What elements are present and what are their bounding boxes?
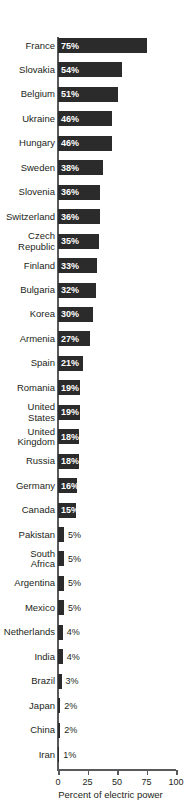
bar-row: Korea30% [0,307,185,322]
bar-row: Slovenia36% [0,185,185,200]
bar-value-label: 36% [61,187,79,197]
bar-row: Mexico5% [0,600,185,615]
bar-row: Argentina5% [0,576,185,591]
bar [58,600,64,615]
x-tick-label: 0 [55,777,60,788]
bar: 36% [58,209,100,224]
bar-value-label: 35% [61,236,79,246]
category-label: Germany [0,480,58,491]
bar: 16% [58,478,77,493]
bar-value-label: 18% [61,456,79,466]
bar-row: China2% [0,723,185,738]
bar: 51% [58,87,118,102]
bar-value-label: 46% [61,138,79,148]
category-label: Slovakia [0,65,58,76]
bar-value-label: 75% [61,41,79,51]
category-label: India [0,652,58,663]
x-tick [58,770,60,775]
category-label: Sweden [0,163,58,174]
bar-row: Ukraine46% [0,111,185,126]
bar-row: South Africa5% [0,551,185,566]
bar-row: United States19% [0,405,185,420]
bar-row: Romania19% [0,380,185,395]
category-label: Hungary [0,138,58,149]
bar-row: Hungary46% [0,136,185,151]
category-label: Armenia [0,334,58,345]
category-label: Russia [0,456,58,467]
bar-value-label: 5% [68,530,81,540]
category-label: China [0,725,58,736]
plot-area: France75%Slovakia54%Belgium51%Ukraine46%… [0,0,185,811]
bar-row: India4% [0,649,185,664]
category-label: Bulgaria [0,285,58,296]
bar: 46% [58,111,112,126]
bar-value-label: 1% [63,750,76,760]
bar-value-label: 46% [61,114,79,124]
bar-row: Czech Republic35% [0,234,185,249]
category-label: South Africa [0,548,58,569]
category-label: Czech Republic [0,231,58,252]
bar-value-label: 21% [61,358,79,368]
category-label: Korea [0,309,58,320]
category-label: Japan [0,700,58,711]
bar-row: United Kingdom18% [0,429,185,444]
bar-value-label: 19% [61,383,79,393]
bar: 46% [58,136,112,151]
bar-row: Spain21% [0,356,185,371]
category-label: Belgium [0,89,58,100]
bar-value-label: 54% [61,65,79,75]
category-label: Spain [0,358,58,369]
bar-row: Switzerland36% [0,209,185,224]
bar: 35% [58,234,99,249]
category-label: Iran [0,749,58,760]
category-label: Pakistan [0,529,58,540]
bar: 38% [58,160,103,175]
category-label: Brazil [0,676,58,687]
bar-value-label: 32% [61,285,79,295]
x-axis-title: Percent of electric power [0,789,185,801]
bar-value-label: 2% [64,725,77,735]
bar-value-label: 51% [61,89,79,99]
x-tick [147,770,149,775]
bar-row: Armenia27% [0,331,185,346]
bar-value-label: 3% [66,676,79,686]
bar-value-label: 30% [61,309,79,319]
category-label: United Kingdom [0,426,58,447]
bar-row: Iran1% [0,747,185,762]
bar-row: France75% [0,38,185,53]
bar-value-label: 5% [68,578,81,588]
category-label: Romania [0,383,58,394]
category-label: Canada [0,505,58,516]
bar [58,723,60,738]
category-label: Finland [0,260,58,271]
bar-row: Netherlands4% [0,625,185,640]
bar [58,576,64,591]
x-tick-label: 50 [112,777,122,788]
bar-row: Brazil3% [0,674,185,689]
bar-row: Belgium51% [0,87,185,102]
bar-value-label: 19% [61,407,79,417]
bar-value-label: 27% [61,334,79,344]
bar-value-label: 36% [61,212,79,222]
bar: 75% [58,38,147,53]
bar [58,551,64,566]
bar-value-label: 16% [61,481,79,491]
bar [58,625,63,640]
x-tick [117,770,119,775]
bar [58,698,60,713]
bar-value-label: 4% [67,627,80,637]
bar: 33% [58,258,97,273]
x-tick-label: 25 [82,777,92,788]
bar: 54% [58,62,122,77]
bar-row: Russia18% [0,454,185,469]
bar-row: Pakistan5% [0,527,185,542]
bar-row: Germany16% [0,478,185,493]
bar-value-label: 33% [61,261,79,271]
bar: 27% [58,331,90,346]
bar-row: Slovakia54% [0,62,185,77]
category-label: Argentina [0,578,58,589]
bar-value-label: 5% [68,554,81,564]
bar: 30% [58,307,93,322]
bar-row: Sweden38% [0,160,185,175]
nuclear-share-bar-chart: France75%Slovakia54%Belgium51%Ukraine46%… [0,0,185,811]
